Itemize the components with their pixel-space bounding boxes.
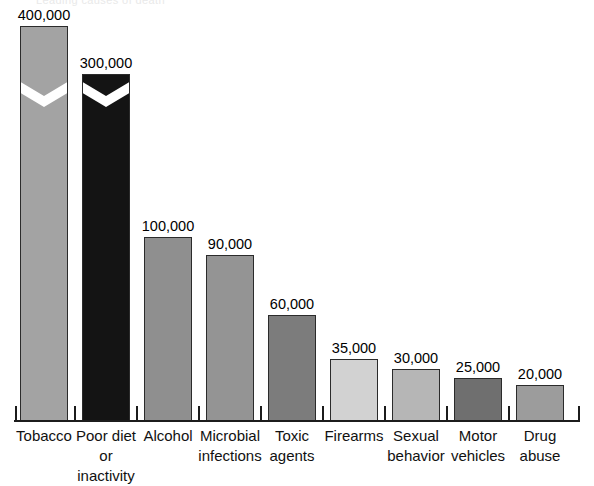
scale-break-icon <box>20 79 68 109</box>
x-axis-tick <box>322 406 324 421</box>
bar-value-label: 400,000 <box>18 8 70 23</box>
bar-value-label: 25,000 <box>456 360 500 375</box>
category-label-line2: abuse <box>508 446 572 466</box>
scale-break-icon <box>82 79 130 109</box>
bar-value-label: 300,000 <box>80 56 132 71</box>
x-axis-tick <box>446 406 448 421</box>
category-label: Firearms <box>322 426 386 446</box>
category-label-line1: Microbial <box>200 427 260 444</box>
bar-value-label: 60,000 <box>270 297 314 312</box>
category-label-line1: Poor diet <box>76 427 136 444</box>
category-label-layer: TobaccoPoor dietor inactivityAlcoholMicr… <box>0 426 594 473</box>
category-label: Motorvehicles <box>446 426 510 466</box>
bar-value-label: 90,000 <box>208 237 252 252</box>
category-label-line1: Alcohol <box>143 427 192 444</box>
x-axis-tick <box>578 406 580 421</box>
category-label-line2: vehicles <box>446 446 510 466</box>
x-axis-tick <box>384 406 386 421</box>
bar[interactable] <box>20 26 68 422</box>
bar-group: 90,000 <box>206 255 254 422</box>
category-label-line2: or inactivity <box>74 446 138 486</box>
category-label-line2: agents <box>260 446 324 466</box>
x-axis-tick <box>74 406 76 421</box>
category-label: Tobacco <box>12 426 76 446</box>
x-axis-tick <box>136 406 138 421</box>
bar[interactable] <box>330 359 378 422</box>
category-label-line1: Drug <box>524 427 557 444</box>
plot-area: 400,000300,000100,00090,00060,00035,0003… <box>0 0 594 422</box>
bar-group: 20,000 <box>516 385 564 422</box>
category-label-line1: Toxic <box>275 427 309 444</box>
category-label: Alcohol <box>136 426 200 446</box>
bar-value-label: 35,000 <box>332 341 376 356</box>
x-axis-tick <box>508 406 510 421</box>
bar-group: 100,000 <box>144 237 192 422</box>
category-label: Drugabuse <box>508 426 572 466</box>
bar-group: 300,000 <box>82 74 130 422</box>
bar-value-label: 30,000 <box>394 351 438 366</box>
category-label-line1: Sexual <box>393 427 439 444</box>
x-axis-tick <box>260 406 262 421</box>
x-axis-line <box>14 420 580 422</box>
category-label-line2: infections <box>198 446 262 466</box>
bar[interactable] <box>206 255 254 422</box>
category-label-line2: behavior <box>384 446 448 466</box>
category-label: Toxicagents <box>260 426 324 466</box>
bar[interactable] <box>82 74 130 422</box>
bar[interactable] <box>268 315 316 422</box>
bar[interactable] <box>144 237 192 422</box>
bar[interactable] <box>516 385 564 422</box>
bar-group: 35,000 <box>330 359 378 422</box>
bar-value-label: 100,000 <box>142 219 194 234</box>
category-label-line1: Firearms <box>324 427 383 444</box>
bar[interactable] <box>454 378 502 422</box>
category-label: Poor dietor inactivity <box>74 426 138 486</box>
x-axis-tick <box>198 406 200 421</box>
category-label: Sexualbehavior <box>384 426 448 466</box>
bar-group: 60,000 <box>268 315 316 422</box>
category-label-line1: Motor <box>459 427 497 444</box>
bar[interactable] <box>392 369 440 422</box>
x-axis-tick <box>15 406 17 421</box>
bar-group: 25,000 <box>454 378 502 422</box>
bar-group: 30,000 <box>392 369 440 422</box>
bar-value-label: 20,000 <box>518 367 562 382</box>
category-label: Microbialinfections <box>198 426 262 466</box>
bar-group: 400,000 <box>20 26 68 422</box>
category-label-line1: Tobacco <box>16 427 72 444</box>
